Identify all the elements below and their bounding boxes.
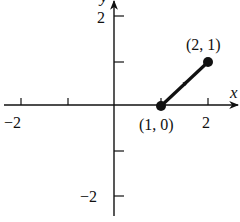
point-start-label: (1, 0) [139,116,174,134]
x-tick-label-2: 2 [202,114,210,131]
coordinate-plane-diagram: −2 2 2 −2 x y (1, 0) (2, 1) [0,0,240,222]
point-end-label: (2, 1) [186,36,221,54]
x-tick-label-neg2: −2 [4,114,21,131]
y-axis-label: y [98,0,108,6]
point-end [203,57,213,67]
plot-svg: −2 2 2 −2 x y (1, 0) (2, 1) [0,0,240,222]
point-start [156,101,166,111]
y-tick-label-2: 2 [97,9,105,26]
x-axis-label: x [229,83,238,102]
direction-arrow-icon [176,83,186,93]
y-tick-label-neg2: −2 [80,188,97,205]
